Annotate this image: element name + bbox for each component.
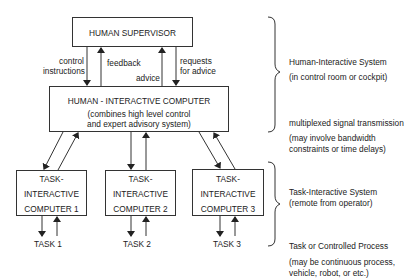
mux-sub2: constraints or time delays) xyxy=(289,144,386,154)
tic3-line3: COMPUTER 3 xyxy=(193,204,263,214)
task-3-label: TASK 3 xyxy=(213,239,241,249)
tic1-line3: COMPUTER 1 xyxy=(17,204,86,214)
tis-sub: (remote from operator) xyxy=(289,198,372,208)
hic-desc-line2: and expert advisory system) xyxy=(50,119,228,129)
tic3-line1: TASK- xyxy=(193,174,263,184)
tis-title: Task-Interactive System xyxy=(289,187,377,197)
task-interactive-computer-1: TASK- INTERACTIVE COMPUTER 1 xyxy=(16,170,87,216)
requests-label: requests xyxy=(180,56,212,66)
task-interactive-computer-2: TASK- INTERACTIVE COMPUTER 2 xyxy=(105,170,176,216)
task-process-sub1: (may be continuous process, xyxy=(289,257,395,267)
tic3-line2: INTERACTIVE xyxy=(193,189,263,199)
hic-title: HUMAN - INTERACTIVE COMPUTER xyxy=(50,96,228,106)
tic2-line3: COMPUTER 2 xyxy=(106,204,175,214)
tic1-line1: TASK- xyxy=(17,174,86,184)
for-advice-label: for advice xyxy=(180,66,216,76)
feedback-label: feedback xyxy=(107,58,141,68)
task-interactive-computer-3: TASK- INTERACTIVE COMPUTER 3 xyxy=(192,169,264,216)
task-interactive-brace xyxy=(268,162,280,246)
mux-title: multiplexed signal transmission xyxy=(289,118,404,128)
advice-label: advice xyxy=(136,73,160,83)
human-interactive-brace xyxy=(268,17,280,132)
hic-to-tic1-arrow xyxy=(44,132,63,169)
human-interactive-computer-box: HUMAN - INTERACTIVE COMPUTER (combines h… xyxy=(49,86,229,132)
tic1-to-hic-arrow xyxy=(58,133,78,170)
his-sub: (in control room or cockpit) xyxy=(289,72,387,82)
mux-sub1: (may involve bandwidth xyxy=(289,133,376,143)
hic-desc-line1: (combines high level control xyxy=(50,109,228,119)
tic2-line2: INTERACTIVE xyxy=(106,189,175,199)
his-title: Human-Interactive System xyxy=(289,57,387,67)
control-label: control xyxy=(59,56,84,66)
task-2-label: TASK 2 xyxy=(123,239,151,249)
task-1-label: TASK 1 xyxy=(34,239,62,249)
tic2-line1: TASK- xyxy=(106,174,175,184)
task-process-title: Task or Controlled Process xyxy=(289,241,388,251)
human-supervisor-label: HUMAN SUPERVISOR xyxy=(73,28,192,38)
human-supervisor-box: HUMAN SUPERVISOR xyxy=(72,17,193,47)
instructions-label: instructions xyxy=(43,66,85,76)
tic1-line2: INTERACTIVE xyxy=(17,189,86,199)
task-process-sub2: vehicle, robot, or etc.) xyxy=(289,268,369,278)
